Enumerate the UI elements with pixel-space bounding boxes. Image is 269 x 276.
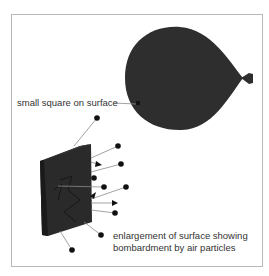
small-square-marker — [136, 101, 140, 105]
air-particle — [112, 210, 118, 216]
arrow-head-icon — [112, 200, 118, 206]
air-particle — [123, 184, 129, 190]
enlargement-label-line2: bombardment by air particles — [113, 242, 248, 254]
air-particle — [115, 143, 121, 149]
enlargement-label-line1: enlargement of surface showing — [113, 230, 248, 242]
balloon — [125, 27, 253, 130]
arrow-head-icon — [95, 161, 102, 167]
air-particle — [91, 175, 97, 181]
enlargement-label: enlargement of surface showing bombardme… — [113, 230, 248, 253]
balloon-knot — [241, 73, 253, 84]
air-particle — [69, 247, 75, 253]
air-particle — [98, 232, 104, 238]
air-particle — [94, 115, 100, 121]
small-square-label: small square on surface — [17, 97, 118, 109]
air-particle — [118, 161, 124, 167]
arrow-heads — [90, 161, 118, 206]
air-particle — [101, 184, 107, 190]
